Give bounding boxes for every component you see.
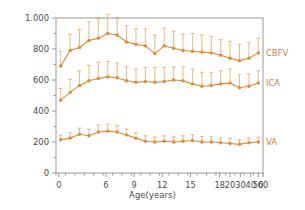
data-point bbox=[134, 136, 137, 139]
data-point bbox=[163, 140, 166, 143]
data-point bbox=[238, 59, 241, 62]
data-point bbox=[134, 43, 137, 46]
data-point bbox=[238, 143, 241, 146]
data-point bbox=[163, 80, 166, 83]
series-label-cbfv: CBFV bbox=[266, 48, 288, 58]
data-point bbox=[257, 51, 260, 54]
data-point bbox=[181, 140, 184, 143]
data-point bbox=[228, 57, 231, 60]
plot-area: 02004006008001.0000691215182030405060CBF… bbox=[0, 0, 305, 210]
data-point bbox=[228, 81, 231, 84]
series-ica bbox=[59, 61, 261, 101]
data-point bbox=[97, 36, 100, 39]
data-point bbox=[144, 140, 147, 143]
x-tick-label: 12 bbox=[157, 180, 167, 190]
data-point bbox=[97, 130, 100, 133]
data-point bbox=[78, 46, 81, 49]
series-cbfv bbox=[59, 14, 261, 68]
data-point bbox=[144, 80, 147, 83]
x-tick-label: 60 bbox=[258, 180, 268, 190]
data-point bbox=[106, 32, 109, 35]
data-point bbox=[257, 140, 260, 143]
x-tick-label: 9 bbox=[131, 180, 136, 190]
data-point bbox=[200, 140, 203, 143]
data-point bbox=[200, 85, 203, 88]
data-point bbox=[172, 78, 175, 81]
data-point bbox=[115, 33, 118, 36]
data-point bbox=[247, 85, 250, 88]
data-point bbox=[106, 129, 109, 132]
y-tick-label: 200 bbox=[33, 137, 49, 147]
x-tick-label: 0 bbox=[56, 180, 61, 190]
data-point bbox=[163, 44, 166, 47]
data-point bbox=[219, 54, 222, 57]
data-point bbox=[106, 75, 109, 78]
data-point bbox=[191, 139, 194, 142]
series-label-va: VA bbox=[266, 137, 277, 147]
series-line bbox=[61, 34, 259, 67]
y-tick-label: 400 bbox=[33, 106, 49, 116]
data-point bbox=[87, 39, 90, 42]
y-tick-label: 600 bbox=[33, 75, 49, 85]
data-point bbox=[219, 82, 222, 85]
data-point bbox=[181, 79, 184, 82]
data-point bbox=[153, 52, 156, 55]
data-point bbox=[144, 44, 147, 47]
data-point bbox=[181, 49, 184, 52]
data-point bbox=[191, 50, 194, 53]
data-point bbox=[87, 79, 90, 82]
data-point bbox=[59, 64, 62, 67]
data-point bbox=[134, 81, 137, 84]
data-point bbox=[115, 76, 118, 79]
data-point bbox=[59, 138, 62, 141]
data-point bbox=[87, 134, 90, 137]
flow-volumes-chart: Flow volumes (ml/min) Age(years) 0200400… bbox=[0, 0, 305, 210]
data-point bbox=[153, 81, 156, 84]
x-tick-label: 20 bbox=[225, 180, 235, 190]
data-point bbox=[59, 98, 62, 101]
data-point bbox=[153, 140, 156, 143]
data-point bbox=[210, 84, 213, 87]
data-point bbox=[115, 130, 118, 133]
data-point bbox=[68, 136, 71, 139]
data-point bbox=[78, 84, 81, 87]
data-point bbox=[97, 77, 100, 80]
data-point bbox=[172, 47, 175, 50]
data-point bbox=[247, 57, 250, 60]
data-point bbox=[68, 49, 71, 52]
x-tick-label: 15 bbox=[185, 180, 195, 190]
series-label-ica: ICA bbox=[266, 78, 280, 88]
y-tick-label: 0 bbox=[44, 168, 49, 178]
data-point bbox=[125, 79, 128, 82]
data-point bbox=[125, 133, 128, 136]
data-point bbox=[125, 40, 128, 43]
data-point bbox=[228, 142, 231, 145]
data-point bbox=[210, 140, 213, 143]
data-point bbox=[219, 141, 222, 144]
data-point bbox=[210, 51, 213, 54]
data-point bbox=[200, 50, 203, 53]
x-tick-label: 6 bbox=[103, 180, 108, 190]
data-point bbox=[238, 86, 241, 89]
y-tick-label: 1.000 bbox=[25, 13, 49, 23]
data-point bbox=[68, 91, 71, 94]
series-va bbox=[59, 124, 261, 146]
data-point bbox=[257, 81, 260, 84]
data-point bbox=[172, 140, 175, 143]
data-point bbox=[191, 82, 194, 85]
x-tick-label: 18 bbox=[215, 180, 225, 190]
data-point bbox=[78, 133, 81, 136]
data-point bbox=[247, 141, 250, 144]
y-tick-label: 800 bbox=[33, 44, 49, 54]
x-tick-label: 30 bbox=[235, 180, 245, 190]
